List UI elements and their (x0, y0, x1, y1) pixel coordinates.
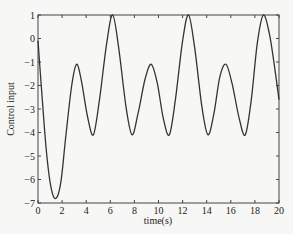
line-chart: 02468101214161820 10−1−2−3−4−5−6−7 time(… (0, 0, 293, 234)
x-tick-label: 6 (108, 205, 113, 216)
y-tick-labels: 10−1−2−3−4−5−6−7 (24, 10, 35, 209)
x-tick-label: 2 (60, 205, 65, 216)
x-tick-label: 14 (202, 205, 212, 216)
x-tick-label: 18 (250, 205, 260, 216)
x-tick-label: 0 (36, 205, 41, 216)
y-axis-label: Control input (5, 82, 16, 136)
y-tick-label: −5 (24, 151, 35, 162)
y-tick-label: −7 (24, 198, 35, 209)
x-tick-label: 4 (84, 205, 89, 216)
x-tick-label: 12 (178, 205, 188, 216)
y-tick-label: −3 (24, 104, 35, 115)
x-tick-label: 20 (274, 205, 284, 216)
y-tick-label: 1 (30, 10, 35, 21)
y-tick-label: −6 (24, 174, 35, 185)
x-axis-label: time(s) (144, 215, 172, 227)
x-tick-label: 8 (132, 205, 137, 216)
y-tick-label: 0 (30, 33, 35, 44)
y-tick-label: −1 (24, 57, 35, 68)
y-tick-label: −2 (24, 80, 35, 91)
plot-area (38, 15, 279, 203)
x-tick-label: 16 (226, 205, 236, 216)
y-tick-label: −4 (24, 127, 35, 138)
